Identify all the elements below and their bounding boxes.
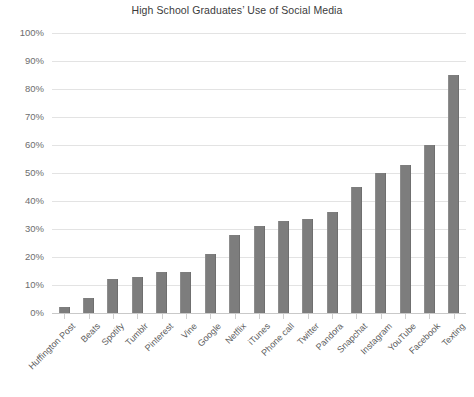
x-tick-mark bbox=[137, 314, 138, 319]
y-tick-label: 60% bbox=[0, 139, 44, 150]
y-tick-label: 0% bbox=[0, 307, 44, 318]
y-tick-label: 80% bbox=[0, 83, 44, 94]
bar bbox=[180, 272, 191, 313]
x-tick-mark bbox=[454, 314, 455, 319]
x-tick-mark bbox=[210, 314, 211, 319]
bar bbox=[205, 254, 216, 313]
x-tick-mark bbox=[235, 314, 236, 319]
x-tick-mark bbox=[381, 314, 382, 319]
x-tick-mark bbox=[356, 314, 357, 319]
bar-series bbox=[52, 33, 466, 313]
x-tick-mark bbox=[308, 314, 309, 319]
x-tick-mark bbox=[186, 314, 187, 319]
bar bbox=[107, 279, 118, 313]
x-tick-mark bbox=[162, 314, 163, 319]
bar-chart: High School Graduates’ Use of Social Med… bbox=[0, 0, 474, 397]
bar bbox=[156, 272, 167, 313]
x-tick-mark bbox=[283, 314, 284, 319]
bar bbox=[327, 212, 338, 313]
bar bbox=[278, 221, 289, 313]
x-tick-mark bbox=[405, 314, 406, 319]
bar bbox=[351, 187, 362, 313]
bar bbox=[59, 307, 70, 313]
y-tick-label: 50% bbox=[0, 167, 44, 178]
x-tick-mark bbox=[332, 314, 333, 319]
bar bbox=[302, 219, 313, 313]
x-tick-mark bbox=[113, 314, 114, 319]
bar bbox=[424, 145, 435, 313]
plot-area bbox=[52, 33, 466, 313]
bar bbox=[254, 226, 265, 313]
bar bbox=[400, 165, 411, 313]
bar bbox=[229, 235, 240, 313]
x-tick-mark bbox=[259, 314, 260, 319]
bar bbox=[132, 277, 143, 313]
bar bbox=[375, 173, 386, 313]
y-tick-label: 30% bbox=[0, 223, 44, 234]
y-tick-label: 90% bbox=[0, 55, 44, 66]
bar bbox=[83, 298, 94, 313]
y-tick-label: 10% bbox=[0, 279, 44, 290]
y-tick-label: 100% bbox=[0, 27, 44, 38]
y-tick-label: 70% bbox=[0, 111, 44, 122]
x-tick-mark bbox=[64, 314, 65, 319]
bar bbox=[448, 75, 459, 313]
y-tick-label: 40% bbox=[0, 195, 44, 206]
y-tick-label: 20% bbox=[0, 251, 44, 262]
x-tick-mark bbox=[429, 314, 430, 319]
x-tick-mark bbox=[89, 314, 90, 319]
